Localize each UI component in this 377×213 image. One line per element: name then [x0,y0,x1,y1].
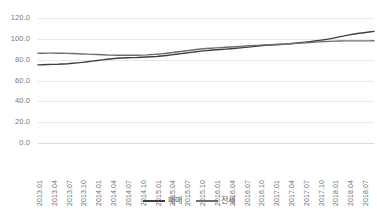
series-line [38,41,374,55]
series-layer [38,18,374,143]
price-index-line-chart: 0.020.040.060.080.0100.0120.0 2013.01201… [0,0,377,213]
legend-label-jeonse: 전세 [221,197,235,205]
y-axis-tick-label: 80.0 [0,56,34,64]
y-axis-tick-label: 100.0 [0,35,34,43]
legend-item-maemae[interactable]: 매매 [143,197,182,205]
x-axis: 2013.012013.042013.072013.102014.012014.… [38,144,374,190]
y-axis-tick-label: 40.0 [0,97,34,105]
y-axis-tick-label: 0.0 [0,139,34,147]
y-axis-tick-label: 60.0 [0,77,34,85]
y-axis: 0.020.040.060.080.0100.0120.0 [0,0,34,213]
legend-swatch-jeonse [196,200,218,202]
legend-swatch-maemae [143,200,165,202]
y-axis-tick-label: 20.0 [0,118,34,126]
legend-item-jeonse[interactable]: 전세 [196,197,235,205]
chart-legend: 매매 전세 [0,192,377,210]
y-axis-tick-label: 120.0 [0,14,34,22]
legend-label-maemae: 매매 [168,197,182,205]
plot-area [38,18,374,143]
